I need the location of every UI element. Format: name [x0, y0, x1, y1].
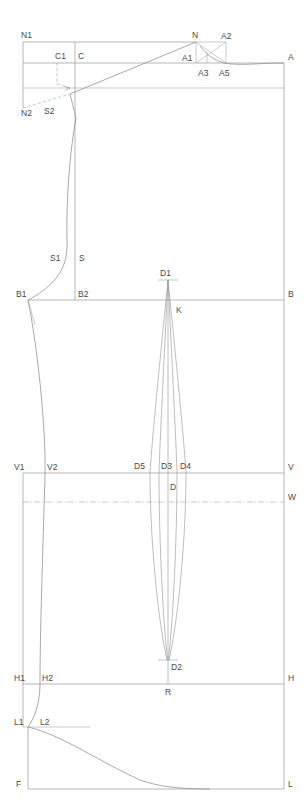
- c1-drop-annotation: [57, 63, 70, 91]
- label-l1: L1: [14, 717, 24, 727]
- pattern-draft-svg: N1 N2 C1 C S2 N A2 A1 A3 A5 A S1 S B1 B2…: [0, 0, 305, 812]
- point-labels: N1 N2 C1 C S2 N A2 A1 A3 A5 A S1 S B1 B2…: [14, 30, 296, 789]
- label-a5: A5: [219, 68, 230, 78]
- c1-arrow-head: [64, 86, 70, 90]
- label-n: N: [192, 30, 198, 40]
- waist-dart-group: [150, 280, 186, 684]
- label-w: W: [288, 492, 296, 502]
- armhole-curve-group: [200, 46, 284, 64]
- label-d3: D3: [161, 461, 172, 471]
- armhole-notch-cross-group: [196, 42, 226, 63]
- label-h1: H1: [14, 673, 25, 683]
- label-c1: C1: [55, 51, 66, 61]
- label-h: H: [288, 673, 294, 683]
- label-c: C: [78, 51, 84, 61]
- hem-curve-group: [28, 727, 210, 789]
- hem-sweep-curve: [28, 727, 210, 789]
- side-seam-group: [28, 300, 45, 727]
- label-d2: D2: [171, 662, 182, 672]
- label-v: V: [288, 462, 294, 472]
- label-b: B: [288, 289, 294, 299]
- vertical-construction-lines: [23, 42, 284, 789]
- label-n1: N1: [21, 30, 32, 40]
- label-r: R: [165, 687, 171, 697]
- label-f: F: [16, 779, 21, 789]
- center-front-curve-group: [28, 118, 76, 300]
- label-l2: L2: [40, 717, 50, 727]
- neck-to-bust-curve: [28, 118, 76, 300]
- label-v1: V1: [14, 462, 25, 472]
- label-d5: D5: [134, 461, 145, 471]
- pattern-draft-canvas: N1 N2 C1 C S2 N A2 A1 A3 A5 A S1 S B1 B2…: [0, 0, 305, 812]
- label-h2: H2: [42, 673, 53, 683]
- label-s1: S1: [50, 253, 61, 263]
- n-to-s2-diagonal-line: [70, 42, 196, 94]
- label-d4: D4: [180, 461, 191, 471]
- armhole-curve: [200, 46, 284, 64]
- label-s2: S2: [44, 106, 55, 116]
- horizontal-construction-lines: [23, 42, 284, 789]
- side-seam-curve: [28, 300, 45, 727]
- label-a: A: [288, 52, 294, 62]
- label-s: S: [79, 253, 85, 263]
- label-b2: B2: [78, 289, 89, 299]
- label-a3: A3: [198, 68, 209, 78]
- label-b1: B1: [16, 289, 27, 299]
- label-v2: V2: [47, 462, 58, 472]
- shoulder-diagonal-group: [70, 42, 196, 118]
- label-k: K: [176, 305, 182, 315]
- label-d: D: [170, 482, 176, 492]
- label-n2: N2: [21, 108, 32, 118]
- label-a1: A1: [182, 53, 193, 63]
- label-d1: D1: [160, 268, 171, 278]
- label-a2: A2: [221, 31, 232, 41]
- label-l: L: [288, 779, 293, 789]
